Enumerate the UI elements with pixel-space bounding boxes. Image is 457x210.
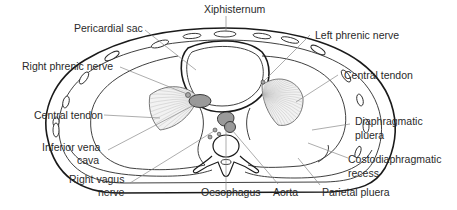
rib: [62, 95, 71, 108]
label-central-tendon-left: Central tendon: [344, 69, 413, 81]
label-pericardial-sac: Pericardial sac: [74, 22, 143, 34]
label-inferior-vena-cava-1: Inferior vena: [42, 141, 101, 153]
label-left-phrenic-nerve: Left phrenic nerve: [315, 29, 399, 41]
leader-lines: [104, 16, 350, 190]
label-right-vagus-nerve-1: Right vagus: [69, 173, 124, 185]
label-inferior-vena-cava-2: cava: [77, 154, 99, 166]
label-costodiaphragmatic-recess-2: recess: [348, 167, 379, 179]
vagus-nerve-dot-2: [217, 132, 221, 136]
rib: [151, 38, 170, 49]
ribs: [53, 31, 370, 158]
label-costodiaphragmatic-recess-1: Costodiaphragmatic: [348, 153, 441, 165]
right-phrenic-nerve-dot: [186, 93, 191, 98]
label-xiphisternum: Xiphisternum: [204, 3, 266, 15]
rib: [281, 35, 300, 44]
label-right-vagus-nerve-2: nerve: [98, 186, 124, 198]
diaphragm-diagram: Xiphisternum Pericardial sac Left phreni…: [0, 0, 457, 210]
rib: [78, 71, 91, 86]
label-diaphragmatic-pleura-2: pluera: [355, 129, 384, 141]
rib: [310, 43, 327, 56]
rib: [214, 31, 236, 37]
leader-aorta: [232, 130, 278, 184]
leader-right-vagus-nerve: [130, 131, 214, 183]
label-diaphragmatic-pleura-1: Diaphragmatic: [355, 115, 423, 127]
small-vessel-dot: [208, 135, 212, 139]
rib: [183, 33, 201, 40]
leader-diaphragmatic-pleura: [312, 124, 350, 130]
label-central-tendon-right: Central tendon: [34, 109, 103, 121]
structures: [186, 80, 266, 139]
label-parietal-pleura: Parietal pluera: [322, 186, 390, 198]
rib: [53, 123, 59, 137]
rib: [356, 93, 365, 106]
label-aorta: Aorta: [273, 186, 298, 198]
leader-right-phrenic-nerve: [120, 67, 187, 94]
rib: [253, 32, 272, 39]
leader-central-tendon-left: [296, 75, 338, 102]
label-oesophagus: Oesophagus: [201, 186, 261, 198]
label-right-phrenic-nerve: Right phrenic nerve: [22, 60, 113, 72]
